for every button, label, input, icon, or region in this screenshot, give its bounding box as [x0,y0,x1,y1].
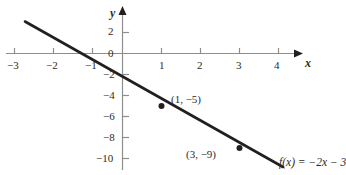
y-axis-arrow-icon [119,6,127,15]
y-axis-label: y [110,7,115,19]
x-tick-label-2: 2 [197,60,203,71]
point-label-1-neg5: (1, −5) [171,94,201,105]
x-tick-label-3: 3 [236,60,242,71]
y-tick-label--6: −6 [103,111,115,122]
x-tick-label--2: −2 [46,60,58,71]
y-tick-label--2: −2 [103,69,115,80]
x-tick-label--1: −1 [85,60,97,71]
function-equation-label: f(x) = −2x − 3 [279,157,346,169]
function-line-plot [25,22,283,168]
origin-label: 0 [108,48,114,59]
y-axis-ticks [123,33,130,159]
y-tick-label-2: 2 [108,26,114,37]
x-tick-label--3: −3 [7,60,19,71]
y-axis-group [119,6,127,170]
x-tick-label-1: 1 [159,60,165,71]
x-axis-label: x [305,57,311,69]
x-axis-arrow-icon [294,50,303,58]
data-point-3-neg9 [237,145,243,151]
y-tick-label--4: −4 [103,90,115,101]
y-tick-label--10: −10 [96,153,113,164]
x-axis-group [6,50,303,58]
y-tick-label--8: −8 [103,132,115,143]
data-point-1-neg5 [159,103,165,109]
point-label-3-neg9: (3, −9) [186,149,216,160]
x-tick-label-4: 4 [274,60,280,71]
x-axis-ticks [15,48,279,54]
